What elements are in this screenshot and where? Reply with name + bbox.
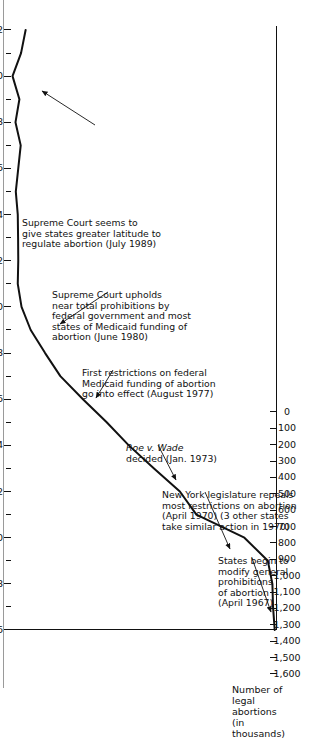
time-tick-label: 1980 <box>0 302 11 312</box>
time-tick-minor <box>6 560 11 561</box>
value-axis-title: Number of legal abortions (in thousands) <box>232 684 284 739</box>
time-tick-minor <box>6 376 11 377</box>
time-tick-label: 1984 <box>0 210 11 220</box>
time-tick-label: 1974 <box>0 440 11 450</box>
annotation-states-modify: States begin to modify general prohibiti… <box>218 556 296 609</box>
value-tick-label: 200 <box>265 440 309 450</box>
time-tick-minor <box>6 283 11 284</box>
annotation-first-restrictions: First restrictions on federal Medicaid f… <box>82 368 250 400</box>
value-tick-label: 1,500 <box>265 653 309 663</box>
annotation-ny-legislature: New York legislature repeals most restri… <box>162 490 320 532</box>
value-tick-label: 1,600 <box>265 669 309 679</box>
annotation-court-upholds: Supreme Court upholds near total prohibi… <box>52 290 226 343</box>
value-tick-label: 300 <box>265 456 309 466</box>
value-tick-label: 1,400 <box>265 636 309 646</box>
time-tick-label: 1978 <box>0 348 11 358</box>
time-tick-label: 1990 <box>0 71 11 81</box>
time-tick-minor <box>6 330 11 331</box>
value-tick-label: 100 <box>265 423 309 433</box>
time-tick-minor <box>6 514 11 515</box>
annotation-court-latitude: Supreme Court seems to give states great… <box>22 218 186 250</box>
value-tick-label: 800 <box>265 538 309 548</box>
time-tick-minor <box>6 237 11 238</box>
time-tick-minor <box>6 468 11 469</box>
time-tick-label: 1970 <box>0 533 11 543</box>
time-tick-label: 1986 <box>0 163 11 173</box>
time-tick-minor <box>6 422 11 423</box>
time-tick-label: 1982 <box>0 256 11 266</box>
time-tick-minor <box>6 99 11 100</box>
time-tick-minor <box>6 191 11 192</box>
time-tick-label: 1968 <box>0 579 11 589</box>
time-tick-label: 1972 <box>0 487 11 497</box>
time-tick-label: 1966 <box>0 625 11 635</box>
annotation-roe-sub: decided (Jan. 1973) <box>126 453 217 464</box>
value-tick-label: 1,300 <box>265 620 309 630</box>
time-tick-minor <box>6 53 11 54</box>
annotation-roe-v-wade: Roe v. Wadedecided (Jan. 1973) <box>126 443 238 464</box>
time-tick-minor <box>6 145 11 146</box>
value-tick-label: 0 <box>265 407 309 417</box>
annotation-roe-title: Roe v. Wade <box>126 442 183 453</box>
time-tick-label: 1992 <box>0 25 11 35</box>
time-tick-label: 1988 <box>0 117 11 127</box>
time-tick-minor <box>6 606 11 607</box>
value-tick-label: 400 <box>265 473 309 483</box>
time-tick-label: 1976 <box>0 394 11 404</box>
